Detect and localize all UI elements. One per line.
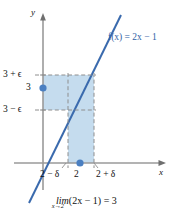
- x-axis-label: x: [159, 168, 163, 177]
- x-tick-label-left: 2 − δ: [40, 170, 59, 180]
- y-tick-label-center: 3: [26, 83, 31, 93]
- limit-epsilon-delta-figure: y x 3 + ϵ 3 3 − ϵ 2 − δ 2 2 + δ f(x) = 2…: [0, 0, 174, 221]
- delta-band-shading: [68, 110, 94, 163]
- x-tick-label-right: 2 + δ: [96, 170, 115, 180]
- x-tick-label-center: 2: [74, 170, 79, 180]
- limit-caption: limx→2(2x − 1) = 3: [56, 196, 117, 206]
- y-axis-arrow: [40, 13, 46, 21]
- limit-caption-subscript: x→2: [52, 202, 64, 209]
- x-axis-arrow: [159, 160, 167, 166]
- y-axis-label: y: [31, 8, 35, 17]
- y-tick-label-lower: 3 − ϵ: [3, 105, 22, 115]
- point-y-3: [39, 84, 46, 91]
- point-x-2: [76, 159, 83, 166]
- y-tick-label-upper: 3 + ϵ: [3, 70, 22, 80]
- function-label: f(x) = 2x − 1: [108, 33, 157, 43]
- limit-caption-expression: (2x − 1) = 3: [69, 195, 117, 206]
